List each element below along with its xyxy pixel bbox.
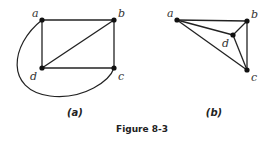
edge-a-d	[177, 20, 233, 35]
graph-a: abcd	[17, 7, 125, 97]
sublabel-a: (a)	[67, 107, 83, 118]
edge-b-d	[233, 21, 247, 35]
vertex-label-d: d	[30, 70, 37, 83]
vertex-d	[230, 32, 235, 37]
figure-8-3-diagram: abcd abcd (a) (b) Figure 8-3	[0, 0, 270, 144]
vertex-label-c: c	[251, 71, 257, 84]
vertex-c	[111, 65, 116, 70]
vertex-label-a: a	[32, 7, 39, 20]
figure-caption: Figure 8-3	[116, 124, 168, 134]
vertex-label-b: b	[118, 7, 125, 20]
edge-a-b	[177, 20, 247, 21]
vertex-a	[39, 17, 44, 22]
curved-edge-a-c	[17, 20, 114, 97]
vertex-c	[244, 67, 249, 72]
vertex-b	[244, 18, 249, 23]
vertex-label-d: d	[222, 37, 229, 50]
vertex-d	[39, 65, 44, 70]
vertex-label-b: b	[251, 8, 258, 21]
edge-d-b	[42, 20, 114, 68]
vertex-label-a: a	[167, 7, 174, 20]
graph-b: abcd	[167, 7, 258, 84]
vertex-b	[111, 17, 116, 22]
vertex-a	[174, 17, 179, 22]
vertex-label-c: c	[118, 70, 124, 83]
sublabel-b: (b)	[206, 107, 222, 118]
